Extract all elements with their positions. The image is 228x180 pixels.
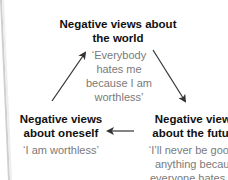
arrows-layer [0,0,228,180]
arrow-up-right-icon [52,53,85,101]
arrow-down-right-icon [153,50,185,101]
